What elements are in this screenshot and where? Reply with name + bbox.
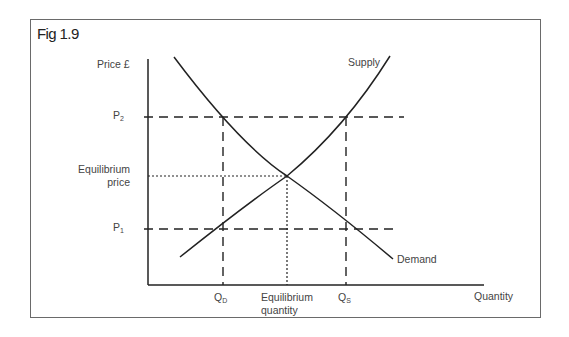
equilibrium-price-label: Equilibriumprice xyxy=(78,163,130,189)
supply-label: Supply xyxy=(348,56,380,69)
qs-label: QS xyxy=(338,291,351,307)
y-axis-label: Price £ xyxy=(97,58,130,71)
demand-label: Demand xyxy=(397,253,437,266)
x-axis-label: Quantity xyxy=(474,290,513,303)
p1-label: P1 xyxy=(113,221,124,237)
p2-label: P2 xyxy=(113,109,124,125)
equilibrium-quantity-label: Equilibriumquantity xyxy=(261,291,313,317)
supply-curve xyxy=(180,56,390,257)
qd-label: QD xyxy=(214,291,227,307)
